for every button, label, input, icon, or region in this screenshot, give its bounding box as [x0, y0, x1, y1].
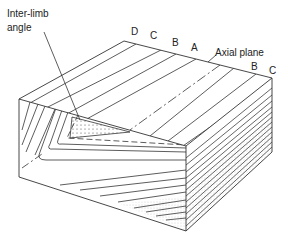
axial-plane-label: Axial plane — [215, 47, 264, 59]
layer-label-b: B — [172, 37, 179, 49]
interlimb-label-line1: Inter-limb — [7, 8, 49, 20]
right-face-layers — [186, 88, 272, 231]
layer-label-c: C — [150, 30, 157, 42]
front-face-fold — [22, 102, 186, 231]
block-diagram-svg — [0, 0, 288, 241]
layer-label-d: D — [131, 26, 138, 38]
fold-block-diagram: Inter-limb angle D C B A Axial plane B C — [0, 0, 288, 241]
interlimb-label-line2: angle — [7, 22, 31, 34]
interlimb-leader — [44, 32, 80, 120]
layer-label-c-right: C — [269, 65, 276, 77]
top-face-layers — [30, 44, 272, 148]
layer-label-a: A — [191, 42, 198, 54]
layer-label-b-right: B — [251, 61, 258, 73]
